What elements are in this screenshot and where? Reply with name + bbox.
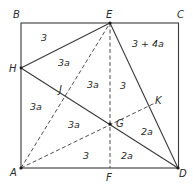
label-point-j: J — [57, 84, 62, 95]
area-label-ejg: 3a — [87, 79, 99, 90]
area-label-egk: 3 — [120, 80, 126, 91]
area-label-ecd: 3 + 4a — [132, 38, 164, 49]
area-label-ajg: 3a — [68, 119, 80, 130]
area-label-ahj: 3a — [30, 101, 42, 112]
point-h-dot — [20, 67, 23, 70]
area-label-agf: 3 — [83, 150, 89, 161]
area-label-bhe: 3 — [41, 32, 47, 43]
label-point-c: C — [177, 9, 184, 20]
point-e-dot — [108, 21, 111, 24]
label-point-d: D — [179, 168, 187, 179]
point-g-dot — [108, 122, 111, 125]
label-point-a: A — [9, 167, 17, 178]
area-label-hej: 3a — [58, 57, 70, 68]
segment-ae-dashed — [21, 23, 110, 168]
area-label-gfd: 2a — [121, 150, 133, 161]
point-a-dot — [19, 166, 22, 169]
area-label-gkd: 2a — [141, 126, 153, 137]
label-point-f: F — [106, 172, 112, 183]
label-point-h: H — [9, 63, 17, 74]
label-point-b: B — [13, 9, 20, 20]
label-point-g: G — [116, 118, 124, 129]
label-point-e: E — [106, 9, 113, 20]
geometry-diagram: B E C H J G K A F D 3 3 + 4a 3a 3a 3 3a … — [0, 0, 193, 187]
label-point-k: K — [155, 95, 163, 106]
